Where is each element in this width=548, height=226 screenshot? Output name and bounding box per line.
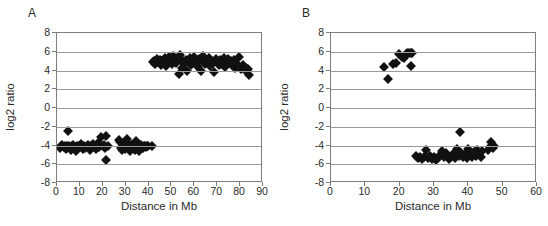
y-axis-tick-mark: [52, 51, 56, 52]
y-axis-tick-label: 2: [296, 82, 324, 94]
panel-a-points: [57, 33, 261, 181]
y-axis-tick-label: 4: [296, 64, 324, 76]
x-axis-tick-mark: [502, 182, 503, 186]
x-axis-tick-mark: [79, 182, 80, 186]
panel-b-plot-area: [330, 32, 536, 182]
x-axis-tick-mark: [467, 182, 468, 186]
x-axis-tick-label: 50: [487, 185, 517, 197]
x-axis-tick-label: 90: [247, 185, 277, 197]
gridline: [331, 164, 535, 165]
gridline: [57, 108, 261, 109]
y-axis-tick-mark: [52, 145, 56, 146]
panel-b-letter: B: [302, 6, 310, 20]
x-axis-tick-label: 40: [452, 185, 482, 197]
panel-a: A Distance in Mb log2 ratio 86420-2-4-6-…: [0, 0, 274, 226]
y-axis-tick-label: 0: [22, 101, 50, 113]
y-axis-tick-mark: [52, 163, 56, 164]
x-axis-tick-mark: [330, 182, 331, 186]
y-axis-tick-mark: [52, 70, 56, 71]
y-axis-tick-label: 8: [22, 26, 50, 38]
data-point: [455, 127, 465, 137]
y-axis-tick-mark: [326, 107, 330, 108]
x-axis-tick-mark: [170, 182, 171, 186]
y-axis-tick-label: 4: [22, 64, 50, 76]
y-axis-tick-mark: [326, 51, 330, 52]
x-axis-tick-mark: [148, 182, 149, 186]
x-axis-tick-label: 0: [315, 185, 345, 197]
gridline: [57, 52, 261, 53]
data-point: [383, 74, 393, 84]
y-axis-tick-label: -2: [296, 120, 324, 132]
y-axis-tick-label: -6: [296, 157, 324, 169]
y-axis-tick-mark: [326, 70, 330, 71]
x-axis-tick-mark: [239, 182, 240, 186]
x-axis-tick-mark: [216, 182, 217, 186]
gridline: [57, 146, 261, 147]
gridline: [331, 71, 535, 72]
x-axis-tick-mark: [433, 182, 434, 186]
y-axis-tick-label: 6: [22, 45, 50, 57]
y-axis-tick-mark: [326, 163, 330, 164]
gridline: [57, 71, 261, 72]
x-axis-tick-mark: [125, 182, 126, 186]
figure-scatter-panels: A Distance in Mb log2 ratio 86420-2-4-6-…: [0, 0, 548, 226]
x-axis-tick-label: 60: [521, 185, 548, 197]
panel-b-points: [331, 33, 535, 181]
y-axis-tick-label: 6: [296, 45, 324, 57]
y-axis-tick-label: -2: [22, 120, 50, 132]
y-axis-tick-label: -6: [22, 157, 50, 169]
y-axis-tick-label: 2: [22, 82, 50, 94]
x-axis-tick-mark: [56, 182, 57, 186]
x-axis-tick-mark: [102, 182, 103, 186]
gridline: [331, 52, 535, 53]
panel-a-letter: A: [28, 6, 36, 20]
panel-a-plot-area: [56, 32, 262, 182]
gridline: [57, 164, 261, 165]
x-axis-tick-label: 30: [418, 185, 448, 197]
y-axis-tick-label: 0: [296, 101, 324, 113]
panel-a-x-axis-label: Distance in Mb: [56, 200, 262, 212]
y-axis-tick-mark: [326, 145, 330, 146]
y-axis-tick-label: -4: [296, 139, 324, 151]
x-axis-tick-mark: [536, 182, 537, 186]
x-axis-tick-mark: [364, 182, 365, 186]
gridline: [331, 89, 535, 90]
panel-b: B Distance in Mb log2 ratio 86420-2-4-6-…: [274, 0, 548, 226]
x-axis-tick-label: 20: [384, 185, 414, 197]
y-axis-tick-label: -4: [22, 139, 50, 151]
x-axis-tick-mark: [193, 182, 194, 186]
y-axis-tick-mark: [52, 88, 56, 89]
y-axis-tick-mark: [326, 88, 330, 89]
panel-b-x-axis-label: Distance in Mb: [330, 200, 536, 212]
gridline: [57, 89, 261, 90]
gridline: [57, 127, 261, 128]
data-point: [406, 61, 416, 71]
panel-a-y-axis-label: log2 ratio: [4, 83, 16, 130]
y-axis-tick-mark: [326, 32, 330, 33]
y-axis-tick-mark: [52, 126, 56, 127]
panel-b-y-axis-label: log2 ratio: [278, 83, 290, 130]
x-axis-tick-label: 10: [349, 185, 379, 197]
x-axis-tick-mark: [399, 182, 400, 186]
gridline: [331, 127, 535, 128]
gridline: [331, 146, 535, 147]
y-axis-tick-mark: [52, 32, 56, 33]
gridline: [331, 108, 535, 109]
y-axis-tick-mark: [52, 107, 56, 108]
y-axis-tick-label: 8: [296, 26, 324, 38]
x-axis-tick-mark: [262, 182, 263, 186]
y-axis-tick-mark: [326, 126, 330, 127]
